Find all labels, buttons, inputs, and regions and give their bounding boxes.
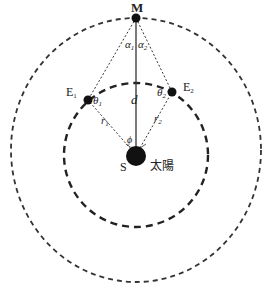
label-sun-name: 太陽 — [150, 158, 174, 173]
line-m-e2 — [136, 18, 172, 92]
label-r2: r2 — [154, 112, 162, 126]
line-s-e1 — [88, 100, 136, 155]
label-s: S — [120, 160, 127, 174]
label-theta2: θ2 — [157, 86, 166, 100]
label-e2: E2 — [183, 80, 194, 95]
orbit-diagram: M α1 α2 E1 E2 θ1 θ2 d r1 r2 ϕ S 太陽 — [0, 0, 270, 289]
label-phi: ϕ — [127, 134, 132, 145]
label-m: M — [131, 0, 143, 15]
label-e1: E1 — [66, 85, 77, 100]
earth2-point — [168, 88, 177, 97]
label-r1: r1 — [101, 114, 109, 128]
sun-point — [126, 146, 146, 166]
earth1-point — [84, 96, 93, 105]
label-d: d — [131, 92, 138, 107]
label-alpha1: α1 — [125, 38, 134, 52]
label-theta1: θ1 — [93, 94, 102, 108]
